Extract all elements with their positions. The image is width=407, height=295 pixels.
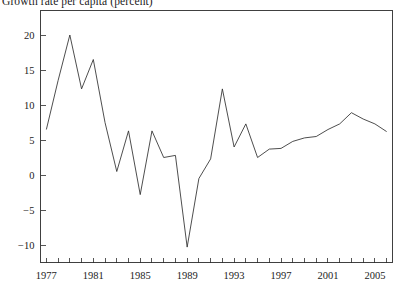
y-axis-ticks: −10−505101520 [18,30,45,251]
data-series-line [46,35,386,247]
y-tick-label: 10 [24,100,35,111]
x-tick-label: 1977 [36,270,57,281]
x-tick-label: 1993 [224,270,245,281]
data-series-group [46,35,386,247]
x-tick-label: 2005 [364,270,385,281]
plot-axes [41,11,393,263]
x-axis-ticks: 19771981198519891993199720012005 [36,258,387,281]
line-chart-plot: −10−505101520 19771981198519891993199720… [0,0,407,295]
x-tick-label: 1981 [83,270,104,281]
x-tick-label: 1985 [130,270,151,281]
plot-frame [41,11,393,263]
x-tick-label: 1989 [177,270,198,281]
y-tick-label: 20 [24,30,35,41]
x-tick-label: 2001 [317,270,338,281]
y-tick-label: −5 [23,205,34,216]
x-tick-label: 1997 [271,270,292,281]
y-tick-label: 5 [29,135,34,146]
y-tick-label: 15 [24,65,35,76]
y-tick-label: 0 [29,170,34,181]
y-tick-label: −10 [18,240,34,251]
chart-figure: Growth rate per capita (percent) −10−505… [0,0,407,295]
